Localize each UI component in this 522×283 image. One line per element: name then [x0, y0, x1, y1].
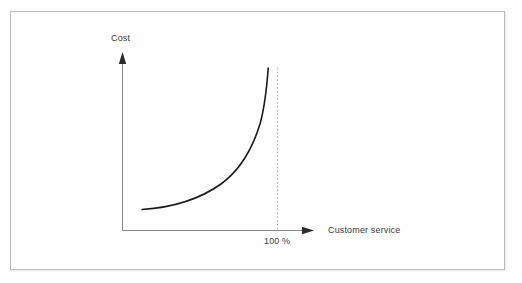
x-tick-label-100-percent: 100 % [264, 236, 290, 246]
cost-curve [142, 68, 268, 210]
y-axis-label: Cost [111, 33, 130, 43]
x-axis-label: Customer service [328, 225, 400, 235]
y-axis-arrow-icon [119, 52, 126, 64]
chart-figure: Cost Customer service 100 % [0, 0, 522, 283]
x-axis-arrow-icon [302, 227, 314, 235]
plot-area [0, 0, 522, 283]
